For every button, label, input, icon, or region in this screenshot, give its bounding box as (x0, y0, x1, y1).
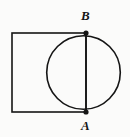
point-label-a: A (81, 119, 90, 132)
circle-shape (47, 36, 121, 110)
square-shape (12, 33, 86, 112)
point-a-marker (83, 109, 88, 114)
point-b-marker (83, 30, 88, 35)
figure-canvas (0, 0, 130, 137)
point-label-b: B (81, 9, 90, 22)
geometry-figure: B A (0, 0, 130, 137)
